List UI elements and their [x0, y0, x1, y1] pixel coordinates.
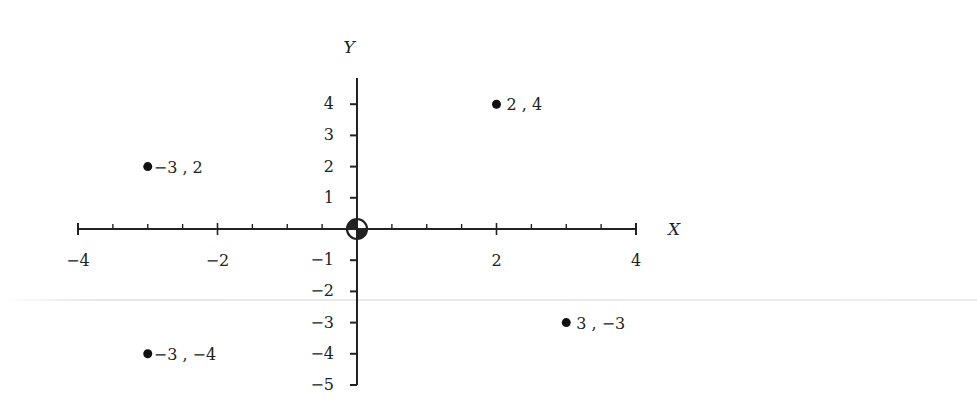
data-point-label: −3 , −4	[154, 345, 216, 364]
y-tick-label: 3	[324, 125, 334, 144]
x-axis-label: X	[666, 219, 681, 239]
y-axis-label: Y	[343, 37, 356, 57]
data-point	[492, 100, 501, 109]
x-tick-label: 4	[631, 251, 641, 270]
y-tick-label: −4	[310, 344, 334, 363]
y-tick-label: 2	[324, 157, 334, 176]
data-point-label: 3 , −3	[576, 314, 625, 333]
data-point-label: 2 , 4	[507, 95, 543, 114]
data-point-label: −3 , 2	[154, 158, 203, 177]
y-tick-label: −3	[310, 313, 334, 332]
y-tick-label: 1	[324, 188, 334, 207]
x-tick-label: −2	[206, 251, 230, 270]
data-point	[143, 349, 152, 358]
data-point	[143, 162, 152, 171]
y-tick-label: −5	[310, 375, 334, 394]
y-tick-label: −1	[310, 250, 334, 269]
coordinate-plane-chart: −4−224X4321−1−2−3−4−5Y2 , 4−3 , 23 , −3−…	[0, 0, 977, 417]
x-tick-label: 2	[491, 251, 501, 270]
data-point	[562, 318, 571, 327]
x-tick-label: −4	[66, 251, 90, 270]
y-tick-label: 4	[324, 94, 334, 113]
y-tick-label: −2	[310, 281, 334, 300]
